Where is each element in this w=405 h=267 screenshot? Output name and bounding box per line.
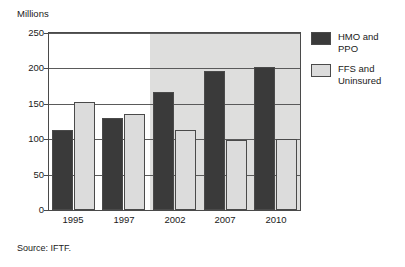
bar-2002-hmo-ppo [153, 92, 174, 210]
legend-swatch-icon-ffs-uninsured [311, 64, 331, 77]
bar-chart-figure: Millions 050100150200250 199519972002200… [0, 0, 405, 267]
y-axis-unit-label: Millions [17, 8, 49, 19]
legend-label-line2: Uninsured [338, 75, 381, 87]
gridline-250 [49, 33, 300, 34]
legend-label-line1: FFS and [338, 63, 381, 75]
x-tick-label-1995: 1995 [48, 214, 98, 226]
y-tick-label-0: 0 [39, 205, 44, 215]
bar-1995-hmo-ppo [52, 130, 73, 210]
legend-item-ffs-uninsured: FFS andUninsured [311, 63, 403, 86]
bar-1997-hmo-ppo [102, 118, 123, 210]
legend-label-line2: PPO [338, 43, 379, 55]
x-axis-tick-labels: 19951997200220072010 [48, 214, 301, 230]
y-axis-tick-labels: 050100150200250 [0, 32, 44, 211]
bar-2010-ffs-uninsured [276, 139, 297, 210]
bar-2007-hmo-ppo [204, 71, 225, 210]
legend-label-ffs-uninsured: FFS andUninsured [338, 63, 381, 86]
source-note: Source: IFTF. [17, 243, 71, 254]
legend-label-hmo-ppo: HMO andPPO [338, 31, 379, 54]
x-tick-label-2007: 2007 [200, 214, 250, 226]
x-tick-label-1997: 1997 [99, 214, 149, 226]
bar-2007-ffs-uninsured [226, 140, 247, 210]
bar-1995-ffs-uninsured [74, 102, 95, 210]
x-tick-label-2010: 2010 [251, 214, 301, 226]
y-tick-label-200: 200 [28, 63, 44, 73]
y-tick-label-250: 250 [28, 28, 44, 38]
bar-2010-hmo-ppo [254, 67, 275, 210]
legend-item-hmo-ppo: HMO andPPO [311, 31, 403, 54]
bar-1997-ffs-uninsured [124, 114, 145, 210]
y-tick-label-100: 100 [28, 134, 44, 144]
y-tick-label-150: 150 [28, 99, 44, 109]
x-tick-label-2002: 2002 [150, 214, 200, 226]
plot-area [48, 32, 301, 211]
bar-2002-ffs-uninsured [175, 130, 196, 210]
chart-legend: HMO andPPOFFS andUninsured [311, 31, 403, 95]
legend-swatch-icon-hmo-ppo [311, 32, 331, 45]
y-tick-label-50: 50 [33, 170, 44, 180]
legend-label-line1: HMO and [338, 31, 379, 43]
